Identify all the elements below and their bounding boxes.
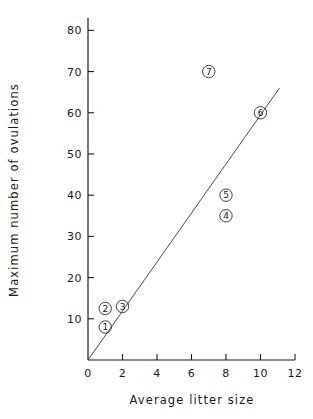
data-point-label: 5 xyxy=(223,190,229,200)
x-axis-title: Average litter size xyxy=(130,393,255,407)
x-tick-label: 0 xyxy=(84,367,92,380)
y-tick-label: 50 xyxy=(67,148,82,161)
data-point: 5 xyxy=(220,189,232,201)
chart-canvas: 1020304050607080 024681012 1234567 Avera… xyxy=(0,0,313,419)
data-point-label: 2 xyxy=(102,304,108,314)
data-point-label: 1 xyxy=(102,322,108,332)
y-tick-label: 70 xyxy=(67,66,82,79)
x-axis-ticks xyxy=(123,354,296,360)
data-point-label: 3 xyxy=(120,302,126,312)
x-tick-label: 12 xyxy=(288,367,303,380)
x-axis-tick-labels: 024681012 xyxy=(84,367,302,380)
data-point: 4 xyxy=(220,210,232,222)
x-tick-label: 10 xyxy=(253,367,268,380)
regression-line-path xyxy=(88,88,279,360)
data-point-label: 7 xyxy=(206,67,212,77)
y-tick-label: 20 xyxy=(67,272,82,285)
data-point: 6 xyxy=(254,107,266,119)
y-axis-title: Maximum number of ovulations xyxy=(7,83,21,297)
scatter-plot-figure: 1020304050607080 024681012 1234567 Avera… xyxy=(0,0,313,419)
y-axis: 1020304050607080 xyxy=(67,18,94,360)
y-axis-ticks xyxy=(88,30,94,318)
x-tick-label: 4 xyxy=(153,367,161,380)
y-tick-label: 10 xyxy=(67,313,82,326)
data-points: 1234567 xyxy=(99,65,267,333)
y-tick-label: 40 xyxy=(67,189,82,202)
data-point: 2 xyxy=(99,302,111,314)
x-tick-label: 2 xyxy=(119,367,127,380)
x-tick-label: 8 xyxy=(222,367,230,380)
y-tick-label: 60 xyxy=(67,107,82,120)
data-point: 1 xyxy=(99,321,111,333)
x-tick-label: 6 xyxy=(188,367,196,380)
regression-line xyxy=(88,88,279,360)
y-axis-tick-labels: 1020304050607080 xyxy=(67,24,82,325)
data-point-label: 6 xyxy=(258,108,264,118)
x-axis: 024681012 xyxy=(84,354,302,380)
data-point: 7 xyxy=(203,65,215,77)
data-point-label: 4 xyxy=(223,211,229,221)
data-point: 3 xyxy=(116,300,128,312)
y-tick-label: 30 xyxy=(67,230,82,243)
y-tick-label: 80 xyxy=(67,24,82,37)
